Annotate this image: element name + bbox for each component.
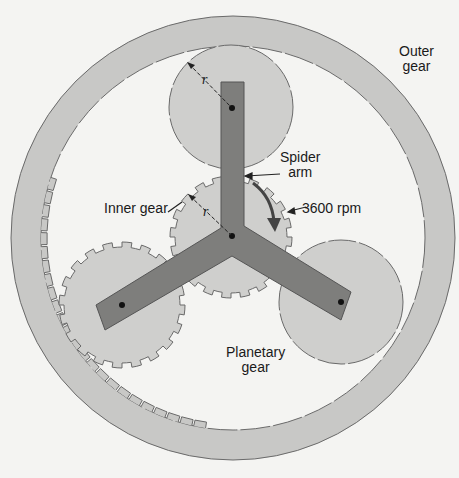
planetary-gear-diagram: Outer gear Spider arm Inner gear 3600 rp… [0,0,459,478]
planetary-gear-label-line1: Planetary [226,345,285,360]
inner-gear-label: Inner gear [104,201,168,216]
spider-arm-label-line2: arm [280,165,320,180]
spider-arm-label: Spider arm [280,150,320,180]
spider-arm-label-line1: Spider [280,150,320,165]
outer-gear-label: Outer gear [399,44,434,74]
outer-gear-label-line2: gear [399,59,434,74]
radius-label-inner: r [203,204,208,220]
outer-gear-label-line1: Outer [399,44,434,59]
gear-drawing [0,0,459,478]
planetary-gear-label-line2: gear [226,360,285,375]
radius-label-top: r [202,72,207,88]
planetary-gear-label: Planetary gear [226,345,285,375]
speed-label: 3600 rpm [302,201,361,216]
